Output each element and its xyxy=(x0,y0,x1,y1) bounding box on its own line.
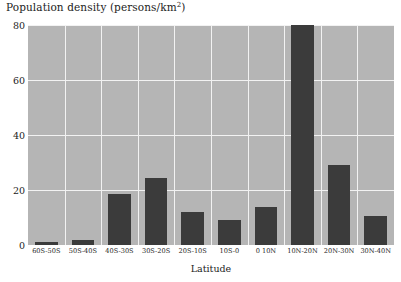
y-axis-tick-label: 40 xyxy=(1,130,25,141)
x-axis-tick-label: 40S-30S xyxy=(105,247,133,255)
plot-area xyxy=(28,25,394,245)
x-axis-tick-label: 30N-40N xyxy=(360,247,391,255)
x-axis-tick-label: 0 10N xyxy=(256,247,276,255)
chart-title: Population density (persons/km2) xyxy=(6,1,186,13)
y-axis-tick-label: 0 xyxy=(1,240,25,251)
y-axis-tick-label: 60 xyxy=(1,75,25,86)
y-axis-tick-label: 80 xyxy=(1,20,25,31)
y-axis: 020406080 xyxy=(0,0,25,282)
x-axis-tick-label: 10S-0 xyxy=(220,247,240,255)
bar xyxy=(291,25,314,245)
bar xyxy=(145,178,168,245)
bar xyxy=(328,165,351,245)
y-axis-tick-label: 20 xyxy=(1,185,25,196)
bar xyxy=(364,216,387,245)
bar xyxy=(35,242,58,245)
bar-series xyxy=(28,25,394,245)
x-axis-tick-label: 20N-30N xyxy=(324,247,355,255)
bar xyxy=(72,240,95,246)
bar xyxy=(218,220,241,245)
x-axis-tick-label: 10N-20N xyxy=(287,247,318,255)
x-axis-tick-label: 50S-40S xyxy=(69,247,97,255)
x-axis-tick-label: 20S-10S xyxy=(179,247,207,255)
bar xyxy=(108,194,131,245)
chart-title-main: Population density (persons/km xyxy=(6,1,177,13)
bar xyxy=(255,207,278,246)
bar xyxy=(181,212,204,245)
chart-container: Population density (persons/km2) 0204060… xyxy=(0,0,401,282)
x-axis-tick-label: 30S-20S xyxy=(142,247,170,255)
x-axis-title: Latitude xyxy=(28,263,394,274)
x-axis-tick-label: 60S-50S xyxy=(32,247,60,255)
chart-title-tail: ) xyxy=(181,1,185,13)
x-axis: 60S-50S50S-40S40S-30S30S-20S20S-10S10S-0… xyxy=(28,247,394,261)
